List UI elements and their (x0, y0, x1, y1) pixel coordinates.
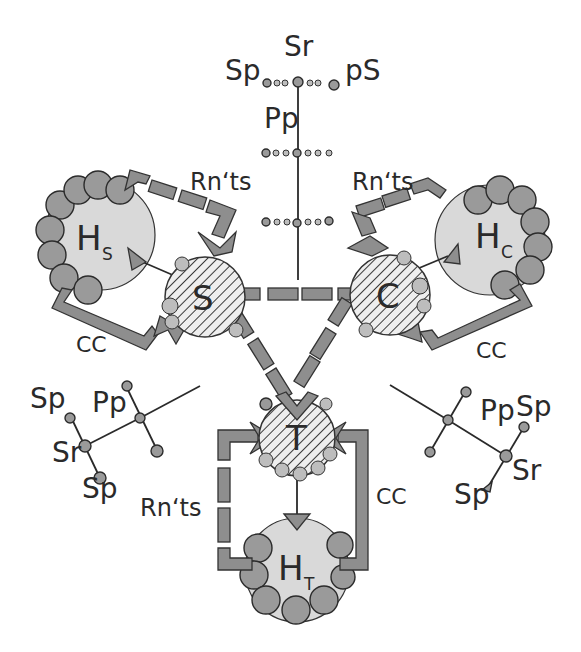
left-sp-top-label: Sp (30, 382, 66, 415)
rnts-right-label: Rn‘ts (352, 168, 413, 196)
halo-hs: H S (36, 171, 155, 304)
cc-right-label: CC (476, 338, 507, 363)
left-sp-bottom-label: Sp (82, 472, 118, 505)
halo-ht: H T (240, 518, 355, 624)
top-sr-label: Sr (284, 30, 314, 63)
right-sr-label: Sr (512, 454, 542, 487)
core-t-label: T (285, 418, 307, 458)
halo-ht-subscript: T (303, 574, 315, 594)
right-sp-top-label: Sp (516, 390, 552, 423)
right-sp-bottom-label: Sp (454, 478, 490, 511)
diagram-canvas: Sp Sr pS Pp Sp Sr Sp Pp Sp Sr Sp Pp (0, 0, 581, 652)
right-cluster: Sp Sr Sp Pp (390, 385, 552, 511)
halo-hc: H C (435, 176, 552, 299)
core-c-label: C (376, 276, 400, 316)
right-pp-label: Pp (480, 394, 515, 427)
right-sr-node (500, 450, 512, 462)
rnts-bottom-label: Rn‘ts (140, 494, 201, 522)
triangle-connectors (230, 288, 362, 400)
top-pp-label: Pp (264, 102, 299, 135)
halo-hc-subscript: C (501, 242, 513, 262)
left-sr-label: Sr (52, 436, 82, 469)
halo-hs-subscript: S (102, 244, 113, 264)
halo-ht-label: H (278, 548, 304, 588)
top-bead-chain-1 (263, 77, 339, 90)
left-pp-label: Pp (92, 386, 127, 419)
top-sp-left-label: Sp (225, 54, 261, 87)
top-bead-chain-2 (262, 149, 332, 157)
rnts-left-label: Rn‘ts (190, 168, 251, 196)
top-bead-chain-3 (262, 217, 333, 227)
halo-hc-label: H (475, 216, 501, 256)
core-s: S (162, 257, 245, 337)
top-ps-right-label: pS (345, 54, 381, 87)
cc-bottom-label: CC (376, 484, 407, 509)
left-cluster: Sp Sr Sp Pp (30, 381, 200, 505)
halo-hs-label: H (76, 218, 102, 258)
cc-left-label: CC (76, 332, 107, 357)
core-s-label: S (192, 278, 214, 318)
